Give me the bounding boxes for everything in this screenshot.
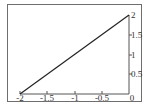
x-tick-label: -0.5 <box>95 93 110 103</box>
x-tick-label: -1 <box>71 93 79 103</box>
y-tick-label: 1.5 <box>131 30 143 40</box>
x-tick-label: -1.5 <box>40 93 55 103</box>
y-tick-label: 1 <box>131 50 136 60</box>
data-line <box>20 15 129 94</box>
y-tick-label: 2 <box>131 10 136 20</box>
x-tick-label: -2 <box>16 93 24 103</box>
line-chart: -2 -1.5 -1 -0.5 0 2 1.5 1 0.5 <box>0 0 151 111</box>
x-tick-label: 0 <box>130 93 135 103</box>
y-tick-label: 0.5 <box>131 69 143 79</box>
